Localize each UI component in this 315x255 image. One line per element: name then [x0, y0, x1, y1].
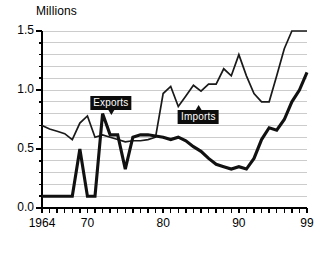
y-tick-label: 1.5 — [2, 23, 34, 37]
annotation-pointer-icon — [195, 105, 201, 110]
y-axis-ticks — [36, 31, 42, 208]
x-tick-label: 99 — [300, 216, 313, 230]
annotation-text: Exports — [93, 97, 128, 108]
y-tick-label: 0.5 — [2, 141, 34, 155]
annotation-pointer-icon — [108, 110, 114, 115]
axes-group — [42, 31, 307, 208]
gridlines-group — [42, 31, 307, 208]
x-tick-label: 80 — [156, 216, 169, 230]
chart-figure: Millions 0.00.51.01.5 196470809099 Expor… — [0, 0, 315, 255]
x-tick-label: 90 — [232, 216, 245, 230]
x-tick-label: 70 — [81, 216, 94, 230]
x-tick-label: 1964 — [29, 216, 56, 230]
annotation-label-exports: Exports — [90, 96, 131, 110]
annotation-text: Imports — [181, 111, 216, 122]
y-tick-label: 1.0 — [2, 82, 34, 96]
annotation-label-imports: Imports — [178, 110, 219, 124]
y-tick-label: 0.0 — [2, 200, 34, 214]
